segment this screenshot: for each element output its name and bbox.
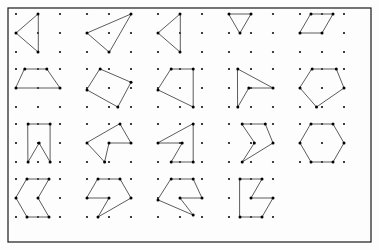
polygon-vertex [27, 123, 30, 126]
lattice-dot [108, 32, 110, 34]
lattice-dot [228, 142, 230, 144]
lattice-dot [250, 32, 252, 34]
lattice-dot [272, 123, 274, 125]
lattice-dot [59, 123, 61, 125]
lattice-dot [86, 68, 88, 70]
lattice-dot [157, 178, 159, 180]
lattice-dot [130, 51, 132, 53]
polygon-vertex [170, 68, 173, 71]
polygon-vertex [272, 197, 275, 200]
lattice-dot [228, 123, 230, 125]
lattice-dot [59, 13, 61, 15]
lattice-dot [15, 51, 17, 53]
figure-frame [8, 8, 371, 242]
polygon-vertex [253, 142, 256, 145]
lattice-dot [15, 161, 17, 163]
lattice-dot [201, 178, 203, 180]
lattice-dot [157, 51, 159, 53]
lattice-dot [299, 106, 301, 108]
polygon-vertex [119, 178, 122, 181]
lattice-dot [201, 161, 203, 163]
lattice-dot [86, 123, 88, 125]
lattice-dot [108, 106, 110, 108]
polygon-vertex [239, 32, 242, 35]
polygon-vertex [272, 142, 275, 145]
lattice-dot [59, 216, 61, 218]
lattice-dot [59, 106, 61, 108]
polygon-vertex [299, 32, 302, 35]
polygon-vertex [27, 161, 30, 164]
lattice-dot [157, 13, 159, 15]
polygon-vertex [311, 68, 314, 71]
lattice-dot [15, 68, 17, 70]
polygon-vertex [332, 13, 335, 16]
lattice-dot [130, 216, 132, 218]
lattice-dot [59, 142, 61, 144]
polygon-vertex [108, 51, 111, 54]
lattice-dot [201, 32, 203, 34]
polygon-vertex [272, 87, 275, 90]
lattice-dot [15, 178, 17, 180]
polygon-vertex [315, 106, 318, 109]
lattice-dot [272, 32, 274, 34]
lattice-dot [228, 51, 230, 53]
lattice-dot [59, 197, 61, 199]
lattice-dot [130, 123, 132, 125]
polygon-vertex [103, 161, 106, 164]
polygon-vertex [241, 161, 244, 164]
lattice-dot [130, 161, 132, 163]
polygon-vertex [86, 32, 89, 35]
lattice-dot [272, 51, 274, 53]
polygon-vertex [26, 178, 29, 181]
lattice-dot [201, 68, 203, 70]
lattice-dot [321, 106, 323, 108]
lattice-dot [86, 161, 88, 163]
lattice-dot [59, 68, 61, 70]
lattice-dot [201, 123, 203, 125]
lattice-dot [130, 106, 132, 108]
polygon-vertex [192, 161, 195, 164]
lattice-dot [86, 178, 88, 180]
polygon-vertex [192, 123, 195, 126]
lattice-dot [37, 106, 39, 108]
lattice-dot [250, 106, 252, 108]
polygon-vertex [201, 197, 204, 200]
lattice-dot [108, 161, 110, 163]
polygon-vertex [23, 68, 26, 71]
polygon-vertex [250, 13, 253, 16]
polygon-vertex [335, 68, 338, 71]
lattice-dot [15, 142, 17, 144]
lattice-dot [130, 32, 132, 34]
lattice-dot [250, 51, 252, 53]
polygon-vertex [15, 32, 18, 35]
polygon-vertex [179, 13, 182, 16]
polygon-vertex [239, 178, 242, 181]
lattice-dot [59, 32, 61, 34]
polygon-vertex [130, 142, 133, 145]
polygon-vertex [261, 178, 264, 181]
polygon-vertex [37, 13, 40, 16]
polygon-vertex [99, 68, 102, 71]
polygon-vertex [192, 214, 195, 217]
lattice-dot [201, 216, 203, 218]
lattice-dot [15, 123, 17, 125]
lattice-dot [15, 106, 17, 108]
lattice-dot [228, 216, 230, 218]
polygon-vertex [192, 68, 195, 71]
lattice-dot [343, 123, 345, 125]
lattice-dot [321, 51, 323, 53]
polygon-vertex [97, 178, 100, 181]
polygon-vertex [130, 13, 133, 16]
lattice-dot [201, 13, 203, 15]
lattice-dot [179, 123, 181, 125]
lattice-dot [272, 178, 274, 180]
lattice-dot [343, 32, 345, 34]
polygon-vertex [170, 178, 173, 181]
polygon-vertex [38, 142, 41, 145]
polygon-vertex [310, 123, 313, 126]
lattice-dot [272, 161, 274, 163]
lattice-dot [108, 87, 110, 89]
polygon-vertex [343, 142, 346, 145]
polygon-vertex [45, 68, 48, 71]
lattice-dot [272, 216, 274, 218]
